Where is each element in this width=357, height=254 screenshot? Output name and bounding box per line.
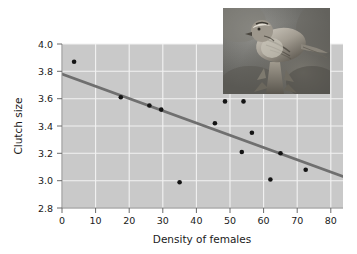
data-point xyxy=(119,95,124,100)
data-point xyxy=(303,167,308,172)
data-point xyxy=(278,151,283,156)
y-tick-label: 4.0 xyxy=(38,39,53,50)
data-point xyxy=(159,107,164,112)
y-tick-label: 3.0 xyxy=(38,175,53,186)
x-tick-label: 50 xyxy=(224,215,236,226)
x-tick-label: 30 xyxy=(157,215,169,226)
data-point xyxy=(268,177,273,182)
y-axis-title: Clutch size xyxy=(12,97,24,154)
data-point xyxy=(147,103,152,108)
x-tick-label: 40 xyxy=(190,215,202,226)
x-tick-label: 10 xyxy=(90,215,102,226)
data-point xyxy=(213,121,218,126)
scatter-plot: 4.0 3.8 3.6 3.4 3.2 3.0 2.8 0 10 20 30 4… xyxy=(0,0,357,254)
data-point xyxy=(241,99,246,104)
x-tick-label: 20 xyxy=(123,215,135,226)
x-tick-label: 80 xyxy=(325,215,337,226)
data-point xyxy=(223,99,228,104)
x-axis-title: Density of females xyxy=(153,233,251,245)
x-tick-label: 0 xyxy=(59,215,65,226)
y-tick-label: 2.8 xyxy=(38,203,53,214)
data-point xyxy=(250,131,255,136)
data-point xyxy=(72,60,77,65)
y-tick-label: 3.8 xyxy=(38,66,53,77)
y-tick-label: 3.4 xyxy=(38,121,53,132)
data-point xyxy=(177,180,182,185)
data-point xyxy=(240,150,245,155)
y-tick-label: 3.6 xyxy=(38,93,53,104)
y-tick-label: 3.2 xyxy=(38,148,53,159)
x-tick-label: 70 xyxy=(291,215,303,226)
x-tick-label: 60 xyxy=(258,215,270,226)
sparrow-photo-inset xyxy=(214,2,340,102)
chart-figure: 4.0 3.8 3.6 3.4 3.2 3.0 2.8 0 10 20 30 4… xyxy=(0,0,357,254)
